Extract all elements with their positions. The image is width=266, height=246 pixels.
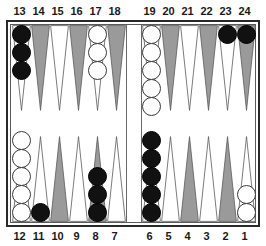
point-label-14: 14	[31, 4, 47, 18]
checker-white-12-2[interactable]	[12, 185, 31, 204]
point-label-4: 4	[180, 229, 196, 243]
point-label-22: 22	[199, 4, 215, 18]
point-label-2: 2	[218, 229, 234, 243]
point-6[interactable]	[142, 136, 161, 222]
point-label-11: 11	[31, 229, 47, 243]
point-label-12: 12	[12, 229, 28, 243]
quadrant-bottom-left	[11, 25, 126, 222]
point-label-1: 1	[237, 229, 253, 243]
checker-black-6-5[interactable]	[142, 131, 161, 150]
board-bar[interactable]	[126, 25, 142, 222]
point-label-19: 19	[142, 4, 158, 18]
point-11[interactable]	[31, 136, 50, 222]
checker-black-8-2[interactable]	[88, 185, 107, 204]
quadrant-bottom-right	[142, 25, 256, 222]
point-label-23: 23	[218, 4, 234, 18]
point-label-5: 5	[161, 229, 177, 243]
point-label-16: 16	[69, 4, 85, 18]
point-label-15: 15	[50, 4, 66, 18]
top-point-labels: 131415161718192021222324	[0, 4, 266, 18]
checker-black-6-1[interactable]	[142, 203, 161, 222]
board-playfield	[10, 24, 256, 223]
point-label-20: 20	[161, 4, 177, 18]
point-label-10: 10	[50, 229, 66, 243]
point-label-17: 17	[88, 4, 104, 18]
point-4[interactable]	[180, 136, 199, 222]
point-5[interactable]	[161, 136, 180, 222]
point-1[interactable]	[237, 136, 256, 222]
point-label-13: 13	[12, 4, 28, 18]
checker-black-6-2[interactable]	[142, 185, 161, 204]
checker-white-1-1[interactable]	[237, 203, 256, 222]
checker-white-12-4[interactable]	[12, 149, 31, 168]
checker-black-6-4[interactable]	[142, 149, 161, 168]
point-label-18: 18	[107, 4, 123, 18]
bottom-point-labels: 121110987654321	[0, 229, 266, 243]
backgammon-screenshot: 131415161718192021222324 121110987654321	[0, 0, 266, 246]
point-label-24: 24	[237, 4, 253, 18]
point-label-9: 9	[69, 229, 85, 243]
point-2[interactable]	[218, 136, 237, 222]
point-label-3: 3	[199, 229, 215, 243]
checker-black-6-3[interactable]	[142, 167, 161, 186]
point-label-7: 7	[107, 229, 123, 243]
checker-black-11-1[interactable]	[31, 203, 50, 222]
point-label-6: 6	[142, 229, 158, 243]
checker-black-8-3[interactable]	[88, 167, 107, 186]
point-label-21: 21	[180, 4, 196, 18]
checker-black-8-1[interactable]	[88, 203, 107, 222]
checker-white-12-3[interactable]	[12, 167, 31, 186]
point-3[interactable]	[199, 136, 218, 222]
point-label-8: 8	[88, 229, 104, 243]
point-7[interactable]	[107, 136, 126, 222]
checker-white-12-1[interactable]	[12, 203, 31, 222]
point-10[interactable]	[50, 136, 69, 222]
point-9[interactable]	[69, 136, 88, 222]
point-8[interactable]	[88, 136, 107, 222]
backgammon-board	[6, 20, 260, 227]
checker-white-12-5[interactable]	[12, 131, 31, 150]
point-12[interactable]	[12, 136, 31, 222]
checker-white-1-2[interactable]	[237, 185, 256, 204]
